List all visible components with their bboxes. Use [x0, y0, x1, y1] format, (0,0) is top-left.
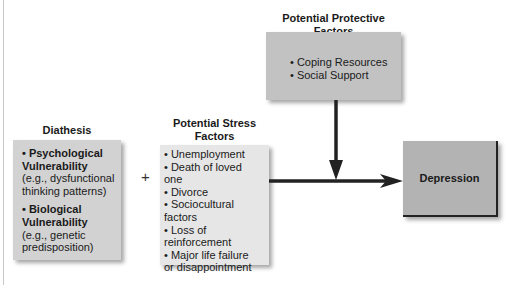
vertical-arrow-icon	[329, 100, 343, 180]
arrows-layer	[0, 0, 516, 285]
